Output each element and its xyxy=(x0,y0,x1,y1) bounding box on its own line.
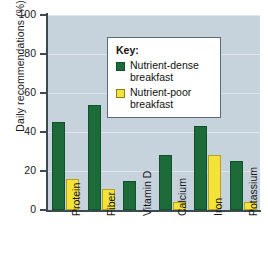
y-tick-mark xyxy=(40,92,47,94)
y-tick-label: 0 xyxy=(2,203,36,215)
bar-nutrient-dense xyxy=(88,105,101,210)
legend-swatch-nutrient-dense xyxy=(116,62,125,71)
plot-area: Key: Nutrient-densebreakfastNutrient-poo… xyxy=(47,15,260,210)
y-tick-label: 60 xyxy=(2,86,36,98)
y-tick-mark xyxy=(40,131,47,133)
y-axis-line xyxy=(46,13,48,212)
y-tick-label: 20 xyxy=(2,164,36,176)
bar-nutrient-dense xyxy=(123,181,136,210)
bar-nutrient-dense xyxy=(194,126,207,210)
bar-chart-figure: Daily recommendations (%) Key: Nutrient-… xyxy=(0,0,268,269)
legend-entry: Nutrient-poorbreakfast xyxy=(116,87,213,110)
bar-group xyxy=(52,15,79,210)
bar-nutrient-dense xyxy=(52,122,65,210)
y-tick-mark xyxy=(40,209,47,211)
x-tick-label: Fiber xyxy=(105,192,117,216)
bar-nutrient-dense xyxy=(230,161,243,210)
x-tick-label: Protein xyxy=(70,183,82,216)
x-tick-label: Calcium xyxy=(176,178,188,216)
legend-label: Nutrient-poorbreakfast xyxy=(130,87,191,110)
legend-entries: Nutrient-densebreakfastNutrient-poorbrea… xyxy=(116,60,213,110)
bar-nutrient-dense xyxy=(159,155,172,210)
x-tick-label: Potassium xyxy=(247,167,259,216)
y-tick-mark xyxy=(40,14,47,16)
y-tick-label: 80 xyxy=(2,47,36,59)
y-tick-label: 40 xyxy=(2,125,36,137)
x-tick-label: Vitamin D xyxy=(141,171,153,216)
y-tick-mark xyxy=(40,170,47,172)
y-tick-label: 100 xyxy=(2,8,36,20)
legend-entry: Nutrient-densebreakfast xyxy=(116,60,213,83)
x-tick-label: Iron xyxy=(212,198,224,216)
y-tick-mark xyxy=(40,53,47,55)
legend-swatch-nutrient-poor xyxy=(116,89,125,98)
legend-label: Nutrient-densebreakfast xyxy=(130,60,199,83)
chart-legend: Key: Nutrient-densebreakfastNutrient-poo… xyxy=(107,37,221,118)
legend-title: Key: xyxy=(116,44,213,56)
